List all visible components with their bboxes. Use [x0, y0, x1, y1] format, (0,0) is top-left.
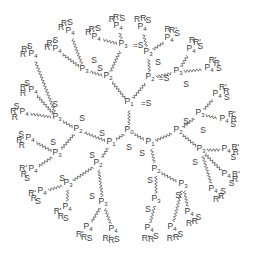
sulfur-atom: S: [183, 117, 189, 126]
wavy-bond: [39, 157, 52, 167]
sulfur-atom: S: [231, 152, 237, 161]
sulfur-atom: S: [52, 100, 58, 109]
sulfur-atom: S: [91, 56, 97, 65]
wavy-bond: [112, 81, 125, 99]
phosphorus-atom: P2: [93, 158, 102, 170]
wavy-bond: [132, 83, 145, 98]
sulfur-atom: S: [197, 42, 203, 51]
terminal-phosphorus-atom: P4: [204, 63, 213, 75]
wavy-bond: [184, 69, 202, 73]
phosphorus-atom: P3: [143, 47, 152, 59]
phosphorus-atom: P2: [103, 71, 112, 83]
wavy-bond: [207, 149, 220, 152]
substituent-group: R': [167, 233, 175, 242]
wavy-bond: [62, 135, 76, 150]
sulfur-atom: S: [59, 174, 65, 183]
wavy-bond: [48, 185, 63, 191]
wavy-bond: [37, 95, 53, 115]
sulfur-atom: S: [27, 41, 33, 50]
phosphorus-atom: P3: [196, 144, 205, 156]
wavy-bond: [162, 172, 176, 183]
sulfur-atom: S: [87, 233, 93, 242]
sulfur-atom: S: [175, 191, 181, 200]
phosphorus-atom: P3: [52, 148, 61, 160]
wavy-bond: [31, 113, 51, 119]
wavy-bond: [101, 149, 109, 157]
phosphorus-atom: P3: [98, 197, 107, 209]
sulfur-atom: S: [229, 179, 235, 188]
sulfur-atom: S: [89, 192, 95, 201]
sulfur-atom: S: [155, 58, 161, 67]
substituent-group: R': [103, 233, 111, 242]
wavy-bond: [206, 114, 216, 119]
wavy-bond: [183, 191, 189, 207]
sulfur-atom: S: [18, 130, 24, 139]
wavy-bond: [150, 149, 155, 164]
phosphorus-atom: P0: [124, 125, 133, 137]
wavy-bond: [64, 120, 72, 128]
sulfur-atom: S: [89, 151, 95, 160]
wavy-bond: [66, 190, 69, 201]
sulfur-atom: S: [52, 36, 58, 45]
substituent-group: R': [28, 188, 36, 197]
wavy-bond: [98, 170, 104, 197]
substituent-group: R': [186, 218, 194, 227]
sulfur-atom: =S: [141, 99, 152, 108]
sulfur-atom: S: [50, 138, 56, 147]
sulfur-atom: S: [147, 176, 153, 185]
sulfur-atom: =S: [159, 74, 170, 83]
sulfur-atom: S: [95, 24, 101, 33]
phosphorus-atom: P3: [173, 66, 182, 78]
substituent-group: R': [76, 229, 84, 238]
sulfur-atom: S: [114, 235, 120, 244]
wavy-bond: [104, 208, 112, 223]
wavy-bond: [117, 134, 125, 141]
terminal-phosphorus-atom: P4: [19, 107, 28, 119]
wavy-bond: [37, 141, 51, 152]
sulfur-atom: S: [14, 102, 20, 111]
wavy-bond: [91, 209, 101, 223]
sulfur-atom: S: [174, 29, 180, 38]
phosphorus-atom: P2: [73, 124, 82, 136]
dendrimer-diagram: P0SP1=SP1SP1SP2SP2=SP2SP2SP2SP2SP3SP3=SP…: [0, 0, 257, 258]
substituent-group: R': [213, 195, 221, 204]
sulfur-atom: S: [230, 120, 236, 129]
sulfur-atom: S: [97, 64, 103, 73]
wavy-bond: [63, 53, 79, 68]
sulfur-atom: S: [183, 80, 189, 89]
sulfur-atom: S: [79, 114, 85, 123]
sulfur-atom: S: [126, 143, 132, 152]
phosphorus-atom: P2: [173, 125, 182, 137]
phosphorus-atom: P1: [124, 97, 133, 109]
sulfur-atom: S: [216, 63, 222, 72]
sulfur-atom: S: [145, 16, 151, 25]
wavy-bond: [72, 167, 93, 181]
phosphorus-atom: P2: [145, 72, 154, 84]
sulfur-atom: S: [139, 149, 145, 158]
phosphorus-atom: P1: [145, 137, 154, 149]
wavy-bond: [155, 176, 158, 194]
wavy-bond: [183, 134, 196, 147]
phosphorus-atom: P3: [79, 64, 88, 76]
sulfur-atom: S: [192, 158, 198, 167]
terminal-phosphorus-atom: P4: [164, 33, 173, 45]
wavy-bond: [128, 111, 131, 125]
terminal-phosphorus-atom: P4: [28, 49, 37, 61]
sulfur-atom: =S: [133, 41, 144, 50]
substituent-group: R': [142, 234, 150, 243]
wavy-bond: [135, 133, 143, 141]
wavy-bond: [109, 51, 120, 71]
wavy-bond: [180, 55, 188, 66]
sulfur-atom: S: [145, 205, 151, 214]
sulfur-atom: S: [200, 126, 206, 135]
phosphorus-atom: P3: [52, 112, 61, 124]
substituent-group: R': [19, 164, 27, 173]
phosphorus-atom: P3: [118, 39, 127, 51]
terminal-phosphorus-atom: P4: [91, 32, 100, 44]
wavy-bond: [155, 133, 172, 141]
phosphorus-atom: P1: [106, 137, 115, 149]
wavy-bond: [152, 42, 163, 50]
phosphorus-atom: P3: [195, 108, 204, 120]
sulfur-atom: S: [99, 129, 105, 138]
wavy-bond: [104, 39, 117, 45]
